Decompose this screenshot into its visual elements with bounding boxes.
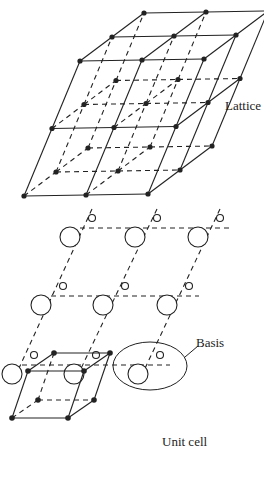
- unit-cell-label: Unit cell: [162, 434, 208, 449]
- lattice-edge: [80, 60, 142, 61]
- lattice-point: [203, 9, 208, 14]
- lattice-edge: [178, 79, 240, 80]
- basis-large-atom: [2, 364, 22, 384]
- lattice-edge: [52, 61, 80, 129]
- lattice-point: [143, 101, 148, 106]
- unit-cell: [9, 350, 113, 421]
- basis-large-atom: [157, 295, 177, 315]
- unit-cell-edge: [94, 353, 110, 400]
- lattice-point: [109, 34, 114, 39]
- basis-large-atom: [128, 364, 148, 384]
- basis-small-atom: [122, 283, 129, 290]
- lattice-point: [233, 32, 238, 37]
- unit-cell-edge: [38, 353, 54, 400]
- lattice-edge: [142, 36, 174, 60]
- lattice-edge: [56, 171, 118, 172]
- lattice-point: [147, 144, 152, 149]
- lattice-point: [85, 145, 90, 150]
- basis-highlight-ellipse: [113, 342, 187, 390]
- unit-cell-point: [51, 350, 57, 356]
- lattice-point: [201, 56, 206, 61]
- lattice-edge: [114, 127, 176, 128]
- basis-large-atom: [31, 295, 51, 315]
- lattice-edge: [84, 104, 146, 105]
- unit-cell-edge: [68, 400, 94, 418]
- lattice-edge: [112, 36, 174, 37]
- basis-grid: [2, 209, 230, 384]
- basis-small-atom: [157, 352, 164, 359]
- lattice-point: [209, 143, 214, 148]
- lattice-edge: [174, 12, 206, 36]
- lattice-edge: [112, 13, 144, 37]
- lattice-edge: [150, 146, 212, 147]
- unit-cell-point: [35, 397, 41, 403]
- lattice-edge: [88, 147, 150, 148]
- basis-large-atom: [125, 227, 145, 247]
- lattice-edge: [24, 195, 86, 196]
- basis-small-atom: [217, 215, 224, 222]
- unit-cell-point: [81, 368, 87, 374]
- basis-large-atom: [60, 227, 80, 247]
- lattice-edge: [86, 128, 114, 196]
- basis-small-atom: [31, 352, 38, 359]
- lattice-point: [177, 167, 182, 172]
- lattice-point: [49, 126, 54, 131]
- unit-cell-point: [107, 350, 113, 356]
- basis-large-atom: [188, 227, 208, 247]
- basis-label: Basis: [196, 335, 224, 350]
- unit-cell-point: [91, 397, 97, 403]
- lattice-edge: [118, 170, 180, 171]
- lattice-point: [81, 102, 86, 107]
- lattice-edge: [86, 194, 148, 195]
- lattice-point: [21, 193, 26, 198]
- lattice-label: Lattice: [225, 98, 261, 113]
- lattice-edge: [116, 80, 178, 81]
- lattice-point: [139, 57, 144, 62]
- lattice-edge: [206, 11, 264, 12]
- lattice-edge: [52, 128, 114, 129]
- unit-cell-point: [25, 368, 31, 374]
- lattice-point: [115, 168, 120, 173]
- lattice-edge: [146, 103, 208, 104]
- basis-large-atom: [93, 295, 113, 315]
- lattice-edge: [240, 11, 264, 79]
- lattice-point: [171, 33, 176, 38]
- basis-small-atom: [60, 283, 67, 290]
- basis-small-atom: [89, 215, 96, 222]
- lattice-edge: [80, 37, 112, 61]
- lattice-point: [205, 100, 210, 105]
- lattice-edge: [142, 59, 204, 60]
- lattice-point: [145, 191, 150, 196]
- lattice-point: [111, 125, 116, 130]
- crystal-structure-diagram: Lattice Basis Unit cell: [0, 0, 264, 491]
- lattice-point: [77, 58, 82, 63]
- unit-cell-edge: [12, 400, 38, 418]
- lattice-point: [173, 124, 178, 129]
- basis-small-atom: [154, 215, 161, 222]
- lattice-point: [237, 76, 242, 81]
- lattice-edge: [24, 129, 52, 197]
- lattice-point: [113, 78, 118, 83]
- lattice-edge: [174, 35, 236, 36]
- unit-cell-point: [65, 415, 71, 421]
- lattice-point: [141, 10, 146, 15]
- lattice-point: [175, 77, 180, 82]
- lattice-point: [83, 192, 88, 197]
- lattice-edge: [144, 12, 206, 13]
- lattice-edge: [114, 60, 142, 128]
- basis-small-atom: [186, 283, 193, 290]
- unit-cell-point: [9, 415, 15, 421]
- lattice-point: [53, 169, 58, 174]
